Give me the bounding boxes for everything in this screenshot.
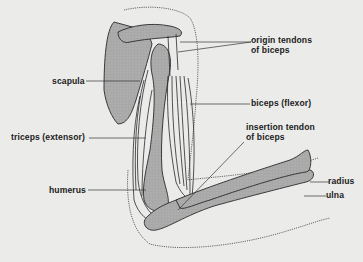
label-insertion-tendon-line1: insertion tendon bbox=[246, 122, 315, 132]
arm-muscle-diagram: origin tendonsof biceps scapula biceps (… bbox=[0, 0, 363, 262]
label-triceps: triceps (extensor) bbox=[11, 133, 85, 143]
label-ulna: ulna bbox=[326, 191, 344, 201]
label-humerus: humerus bbox=[49, 186, 86, 196]
label-origin-tendons: origin tendonsof biceps bbox=[251, 36, 312, 55]
label-scapula: scapula bbox=[52, 77, 85, 87]
biceps-muscle bbox=[167, 34, 194, 202]
label-insertion-tendon: insertion tendonof biceps bbox=[246, 123, 315, 142]
humerus-bone bbox=[143, 44, 170, 211]
label-biceps: biceps (flexor) bbox=[251, 99, 311, 109]
ulna-bone bbox=[144, 170, 313, 230]
label-radius: radius bbox=[328, 177, 354, 187]
label-origin-tendons-line2: of biceps bbox=[251, 45, 290, 55]
label-insertion-tendon-line2: of biceps bbox=[246, 132, 285, 142]
label-origin-tendons-line1: origin tendons bbox=[251, 35, 312, 45]
